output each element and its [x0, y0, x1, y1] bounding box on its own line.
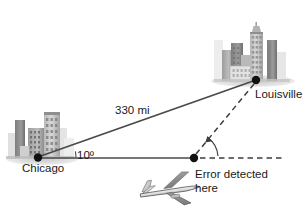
course-line-chicago-louisville: [38, 80, 256, 157]
error-point-marker: [190, 154, 198, 162]
airplane-icon: [138, 170, 202, 211]
distance-label: 330 mi: [115, 104, 150, 116]
error-label-line1: Error detected: [195, 168, 268, 180]
louisville-label: Louisville: [255, 88, 302, 100]
angle-arrowhead-icon: [205, 136, 212, 142]
chicago-label: Chicago: [22, 162, 64, 174]
error-label-line2: here: [195, 182, 218, 194]
angle-label: 10º: [77, 149, 95, 161]
figure-canvas: Chicago Louisville 330 mi 10º Error dete…: [0, 0, 303, 213]
louisville-point-marker: [252, 76, 260, 84]
angle-arc-icon: [75, 151, 76, 158]
correction-line-dashed: [196, 84, 254, 154]
chicago-point-marker: [34, 153, 42, 161]
flight-error-diagram: Chicago Louisville 330 mi 10º Error dete…: [0, 0, 303, 213]
